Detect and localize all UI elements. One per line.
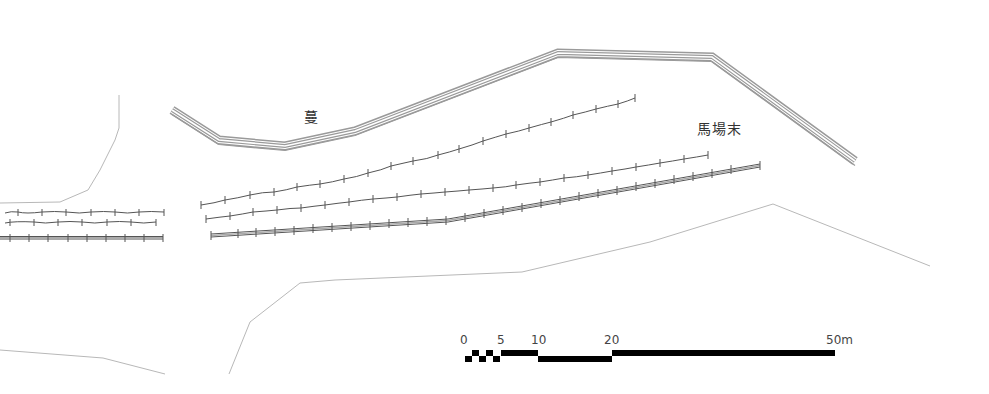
scale-tick-5: 5 — [497, 333, 505, 347]
scale-tick-0: 0 — [460, 333, 468, 347]
scale-seg-5-10 — [501, 350, 538, 356]
scale-seg-20-50 — [612, 350, 835, 356]
fence-lower-rail — [211, 161, 760, 240]
boundary-upper-left — [0, 95, 119, 203]
fence-left-1 — [5, 209, 164, 216]
boundary-lower-left — [0, 350, 165, 374]
fence-left-3 — [0, 234, 163, 242]
scale-seg-4-5 — [493, 356, 500, 362]
scale-seg-0-1 — [465, 356, 472, 362]
fence-middle-curve — [206, 151, 708, 223]
stone-wall — [172, 53, 855, 166]
scale-seg-3-4 — [486, 350, 493, 356]
scale-seg-1-2 — [472, 350, 479, 356]
scale-tick-20: 20 — [604, 333, 619, 347]
scale-seg-2-3 — [479, 356, 486, 362]
scale-tick-50m: 50m — [826, 333, 853, 347]
scale-seg-10-20 — [538, 356, 612, 362]
scale-bar — [465, 350, 835, 362]
place-label-tsuru: 蔓 — [304, 106, 318, 126]
place-label-babasue: 馬場末 — [697, 118, 742, 138]
scale-tick-10: 10 — [531, 333, 546, 347]
fence-left-2 — [5, 219, 156, 226]
